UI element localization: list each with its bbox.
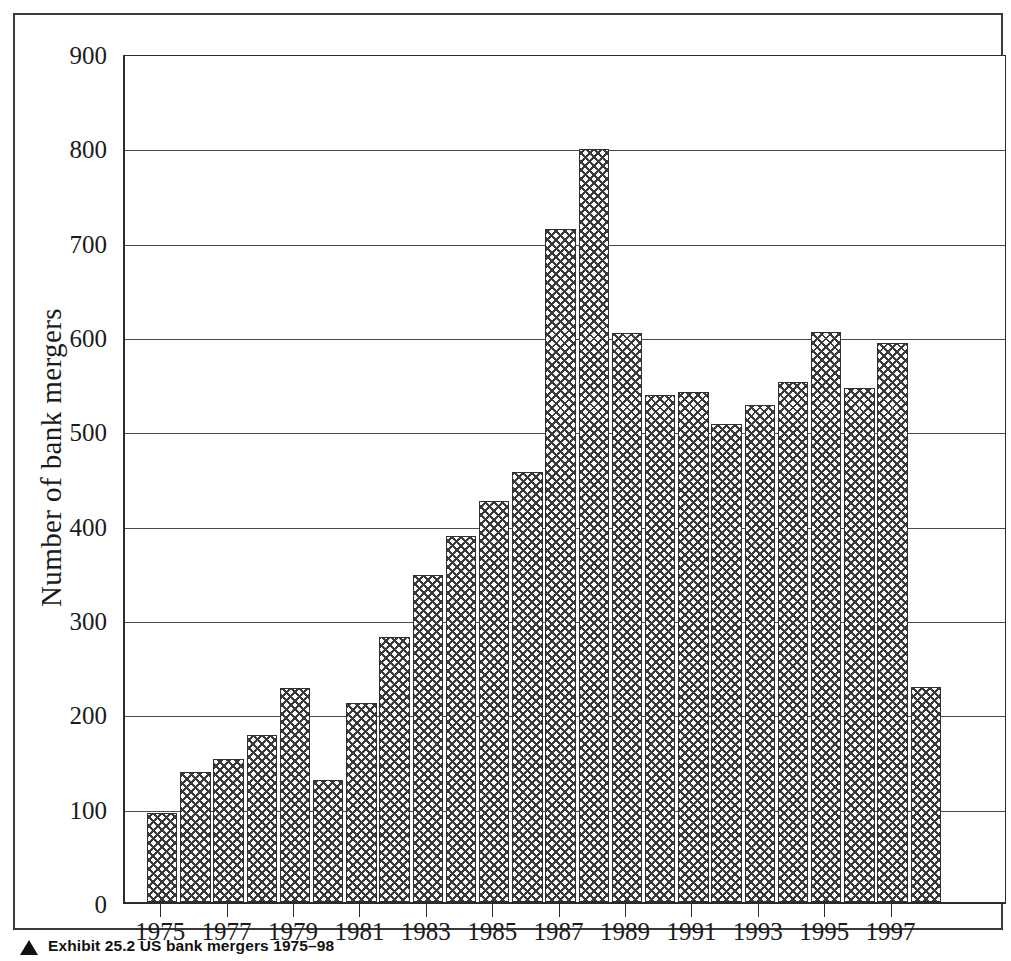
x-tick-1995 bbox=[824, 904, 825, 917]
x-tick-1991 bbox=[691, 904, 692, 917]
x-tick-1993 bbox=[758, 904, 759, 917]
bar-1995 bbox=[811, 332, 841, 902]
y-tick-label-900: 900 bbox=[70, 43, 108, 68]
triangle-bullet-icon bbox=[20, 940, 38, 955]
bar-1975 bbox=[147, 813, 177, 902]
bar-1996 bbox=[844, 388, 874, 902]
bar-1993 bbox=[745, 405, 775, 902]
x-tick-1989 bbox=[625, 904, 626, 917]
caption-text: Exhibit 25.2 US bank mergers 1975–98 bbox=[48, 938, 334, 954]
x-tick-1979 bbox=[293, 904, 294, 917]
bar-1988 bbox=[579, 149, 609, 902]
caption-label: Exhibit 25.2 bbox=[48, 938, 135, 954]
x-tick-1997 bbox=[891, 904, 892, 917]
bar-1987 bbox=[545, 229, 575, 902]
bar-1991 bbox=[678, 392, 708, 902]
bar-1979 bbox=[280, 688, 310, 902]
bar-1990 bbox=[645, 395, 675, 902]
y-tick-label-200: 200 bbox=[70, 703, 108, 728]
bar-1982 bbox=[379, 637, 409, 902]
caption-title: US bank mergers 1975–98 bbox=[140, 938, 334, 954]
figure-caption: Exhibit 25.2 US bank mergers 1975–98 bbox=[20, 938, 1011, 961]
x-axis-ticks bbox=[123, 904, 1006, 918]
y-tick-label-400: 400 bbox=[70, 514, 108, 539]
y-tick-label-600: 600 bbox=[70, 326, 108, 351]
x-tick-1981 bbox=[359, 904, 360, 917]
y-tick-label-100: 100 bbox=[70, 797, 108, 822]
figure-frame: 0100200300400500600700800900 Number of b… bbox=[13, 13, 1003, 930]
bar-1985 bbox=[479, 501, 509, 902]
x-tick-1983 bbox=[426, 904, 427, 917]
plot-area bbox=[123, 55, 1006, 904]
bar-1980 bbox=[313, 780, 343, 902]
bar-1984 bbox=[446, 536, 476, 902]
bar-1997 bbox=[877, 343, 907, 902]
bar-1994 bbox=[778, 382, 808, 902]
y-axis-title: Number of bank mergers bbox=[35, 58, 68, 858]
bar-1986 bbox=[512, 472, 542, 902]
x-tick-1977 bbox=[227, 904, 228, 917]
bar-1998 bbox=[911, 687, 941, 902]
bar-1981 bbox=[346, 703, 376, 902]
bar-1989 bbox=[612, 333, 642, 902]
bar-1983 bbox=[413, 575, 443, 902]
bar-1978 bbox=[247, 735, 277, 902]
y-axis-tick-labels: 0100200300400500600700800900 bbox=[15, 55, 123, 904]
y-tick-label-300: 300 bbox=[70, 609, 108, 634]
y-tick-label-800: 800 bbox=[70, 137, 108, 162]
x-tick-1987 bbox=[559, 904, 560, 917]
y-tick-label-500: 500 bbox=[70, 420, 108, 445]
bar-1992 bbox=[711, 424, 741, 902]
y-tick-label-0: 0 bbox=[95, 892, 108, 917]
x-tick-1985 bbox=[492, 904, 493, 917]
bar-1977 bbox=[213, 759, 243, 902]
gridline-800 bbox=[125, 150, 1005, 151]
bar-1976 bbox=[180, 772, 210, 902]
x-tick-1975 bbox=[160, 904, 161, 917]
y-tick-label-700: 700 bbox=[70, 231, 108, 256]
